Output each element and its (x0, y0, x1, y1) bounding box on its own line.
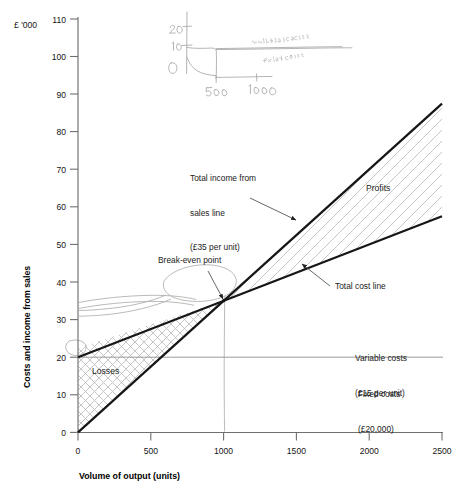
y-tick-70: 70 (34, 165, 66, 175)
x-axis-title: Volume of output (units) (79, 471, 180, 481)
fixed-costs-line1: Fixed costs (358, 389, 400, 401)
variable-costs-line1: Variable costs (355, 353, 407, 365)
x-tick-2500: 2500 (422, 446, 462, 456)
sales-line-annotation-line1: Total income from (190, 173, 256, 185)
fixed-costs-line2: (£20,000) (358, 424, 400, 436)
y-tick-100: 100 (34, 52, 66, 62)
losses-region-label: Losses (92, 366, 119, 376)
y-tick-40: 40 (34, 278, 66, 288)
y-tick-80: 80 (34, 127, 66, 137)
handwritten-sketch (169, 12, 352, 96)
fixed-costs-annotation: Fixed costs (£20,000) (358, 366, 400, 458)
break-even-point-marker (222, 299, 225, 302)
y-tick-60: 60 (34, 202, 66, 212)
sales-line-annotation-line2: sales line (190, 208, 256, 220)
x-tick-500: 500 (131, 446, 171, 456)
sales-line-annotation-line3: (£35 per unit) (190, 242, 256, 254)
break-even-chart: £ '000 110 100 90 80 70 60 50 40 30 20 1… (0, 0, 466, 492)
cost-line-annotation: Total cost line (335, 281, 386, 293)
y-tick-0: 0 (34, 428, 66, 438)
break-even-annotation: Break-even point (158, 255, 221, 267)
y-tick-30: 30 (34, 315, 66, 325)
y-tick-20: 20 (34, 353, 66, 363)
y-tick-10: 10 (34, 390, 66, 400)
x-tick-1000: 1000 (204, 446, 244, 456)
y-tick-110: 110 (34, 15, 66, 25)
y-tick-90: 90 (34, 90, 66, 100)
x-tick-0: 0 (58, 446, 98, 456)
y-axis-title: Costs and income from sales (22, 266, 32, 388)
y-tick-50: 50 (34, 240, 66, 250)
profits-region-label: Profits (366, 183, 390, 193)
x-tick-1500: 1500 (276, 446, 316, 456)
